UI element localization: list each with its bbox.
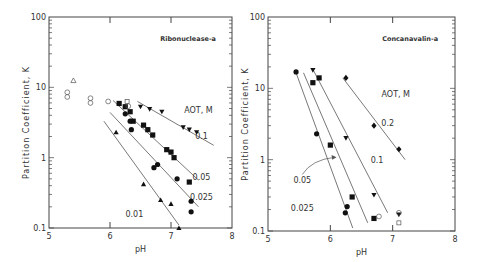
filled-circle-marker: [129, 127, 134, 132]
series-label: 0.025: [291, 204, 314, 213]
open-circle-marker: [106, 99, 111, 104]
panel-title: Concanavalin-a: [382, 35, 438, 43]
fit-line-0.1: [313, 69, 388, 213]
chart-panel-ribonuclease: 56780.1110100pHPartition Coefficient, KR…: [22, 13, 235, 254]
y-tick-label: 100: [31, 13, 46, 22]
filled-circle-marker: [175, 176, 180, 181]
x-tick-label: 5: [46, 232, 51, 241]
filled-diamond-marker: [371, 123, 376, 129]
filled-circle-marker: [189, 199, 194, 204]
x-axis-label: pH: [356, 248, 367, 257]
open-circle-marker: [65, 95, 70, 100]
open-triangle-marker: [71, 78, 76, 83]
y-tick-label: 1: [41, 154, 46, 163]
y-tick-label: 1: [260, 156, 265, 165]
filled-square-marker: [128, 109, 133, 114]
legend-title: AOT, M: [382, 90, 411, 99]
y-tick-label: 0.1: [33, 224, 46, 233]
open-square-marker: [125, 99, 129, 103]
y-tick-label: 10: [36, 83, 46, 92]
chart-panel-concanavalin: 56780.1110100pHPartition Coefficient, KC…: [241, 13, 458, 257]
open-square-marker: [397, 221, 401, 225]
x-axis-label: pH: [135, 245, 146, 254]
filled-circle-marker: [293, 69, 298, 74]
filled-circle-marker: [343, 210, 348, 215]
y-tick-label: 0.1: [252, 227, 265, 236]
filled-square-marker: [168, 149, 173, 154]
figure: 56780.1110100pHPartition Coefficient, KR…: [0, 0, 480, 262]
filled-square-marker: [150, 132, 155, 137]
open-circle-marker: [88, 101, 93, 106]
filled-triangle-down-marker: [138, 105, 143, 110]
filled-triangle-up-marker: [114, 130, 119, 135]
x-tick-label: 8: [229, 232, 234, 241]
plot-frame: [268, 17, 455, 231]
filled-circle-marker: [189, 209, 194, 214]
filled-circle-marker: [314, 131, 319, 136]
x-tick-label: 8: [452, 235, 457, 244]
filled-square-marker: [328, 143, 333, 148]
x-tick-label: 7: [168, 232, 173, 241]
filled-triangle-up-marker: [168, 201, 173, 206]
filled-triangle-down-marker: [159, 110, 164, 115]
filled-square-marker: [371, 216, 376, 221]
series-label: 0.2: [381, 119, 394, 128]
open-circle-marker: [65, 90, 70, 95]
x-tick-label: 6: [328, 235, 333, 244]
arrow-head-icon: [332, 155, 337, 160]
filled-triangle-down-marker: [371, 193, 376, 198]
filled-circle-marker: [123, 111, 128, 116]
filled-square-marker: [141, 123, 146, 128]
x-tick-label: 5: [265, 235, 270, 244]
filled-triangle-up-marker: [158, 197, 163, 202]
filled-square-marker: [145, 127, 150, 132]
fit-line-0.05: [304, 73, 368, 223]
filled-diamond-marker: [396, 146, 401, 152]
series-label: 0.01: [125, 210, 143, 219]
filled-circle-marker: [345, 204, 350, 209]
x-tick-label: 6: [107, 232, 112, 241]
filled-square-marker: [117, 101, 122, 106]
y-axis-label: Partition Coefficient, K: [241, 67, 250, 180]
legend-title: AOT, M: [184, 106, 213, 115]
open-circle-marker: [377, 214, 382, 219]
y-tick-label: 10: [255, 84, 265, 93]
filled-square-marker: [171, 155, 176, 160]
filled-circle-marker: [128, 119, 133, 124]
series-label: 0.05: [293, 176, 311, 185]
chart-canvas: 56780.1110100pHPartition Coefficient, KR…: [0, 0, 480, 262]
filled-square-marker: [187, 179, 192, 184]
y-axis-label: Partition Coefficient, K: [22, 66, 31, 179]
filled-triangle-up-marker: [141, 182, 146, 187]
fit-line-0.025: [110, 112, 198, 206]
filled-triangle-down-marker: [343, 136, 348, 141]
filled-square-marker: [310, 80, 315, 85]
filled-circle-marker: [155, 162, 160, 167]
open-circle-marker: [88, 96, 93, 101]
series-label: 0.1: [371, 156, 384, 165]
panel-title: Ribonuclease-a: [160, 35, 216, 43]
filled-square-marker: [317, 75, 322, 80]
filled-square-marker: [350, 194, 355, 199]
x-tick-label: 7: [390, 235, 395, 244]
y-tick-label: 100: [250, 13, 265, 22]
series-label: 0.05: [193, 173, 211, 182]
